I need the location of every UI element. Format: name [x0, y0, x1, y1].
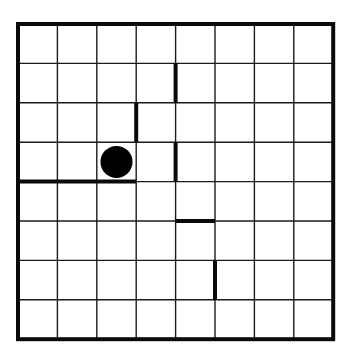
ball-piece[interactable]	[101, 146, 133, 178]
ball-layer	[101, 146, 133, 178]
maze-board	[0, 0, 350, 363]
